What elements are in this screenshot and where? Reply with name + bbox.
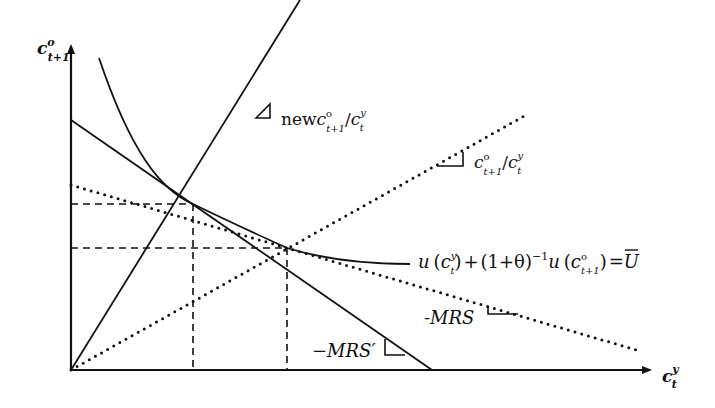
indifference-curve-label: u(cyt)+(1+θ)−1u(cot+1)=U — [418, 250, 640, 276]
mrs-prime-line — [71, 120, 432, 370]
ratio-ray — [71, 115, 526, 370]
mrs-prime-slope-triangle — [385, 339, 405, 355]
indifference-curve — [99, 58, 410, 264]
x-axis-label: cyt — [662, 363, 680, 391]
new-ratio-ray — [71, 0, 300, 370]
new-ratio-label: newcot+1/cyt — [281, 107, 366, 134]
consumption-diagram: cot+1 cyt newcot+1/cyt cot+1/cyt −MRS′ -… — [0, 0, 715, 408]
y-axis-label: cot+1 — [37, 36, 70, 64]
mrs-prime-label: −MRS′ — [312, 340, 375, 361]
mrs-label: -MRS — [424, 307, 474, 328]
mrs-slope-triangle — [488, 306, 518, 314]
ratio-label: cot+1/cyt — [474, 150, 524, 177]
new-ratio-slope-triangle — [256, 104, 270, 118]
